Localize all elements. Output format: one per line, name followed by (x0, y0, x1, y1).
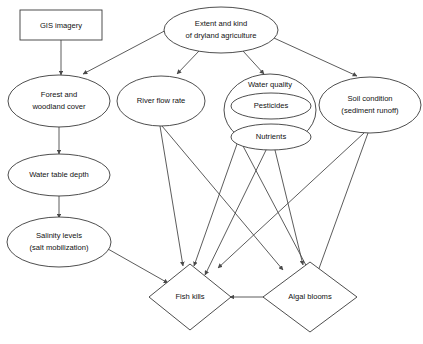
node-salinity-levels-label-line-1: (salt mobilization) (29, 243, 89, 252)
node-soil-condition-label-line-0: Soil condition (347, 94, 392, 103)
edge-layer (59, 27, 368, 297)
node-pesticides[interactable]: Pesticides (231, 93, 311, 119)
node-soil-condition[interactable]: Soil condition (sediment runoff) (319, 77, 421, 133)
edge-water-quality-to-fish-kills (194, 144, 237, 266)
edge-nutrients-to-fish-kills (205, 146, 268, 275)
node-fish-kills[interactable]: Fish kills (149, 264, 231, 330)
node-algal-blooms[interactable]: Algal blooms (263, 262, 357, 332)
node-forest-cover-label-line-1: woodland cover (31, 102, 86, 111)
edge-extent-to-water-quality (243, 51, 264, 74)
node-salinity-levels[interactable]: Salinity levels (salt mobilization) (7, 217, 111, 267)
node-fish-kills-label-line-0: Fish kills (175, 292, 204, 301)
edge-nutrients-to-algal-blooms (274, 146, 303, 265)
edge-water-quality-to-algal-blooms (243, 146, 309, 271)
node-water-quality-label-line-0: Water quality (248, 80, 292, 89)
node-nutrients[interactable]: Nutrients (231, 124, 311, 150)
node-water-table-depth[interactable]: Water table depth (8, 154, 110, 196)
node-nutrients-label-line-0: Nutrients (256, 132, 287, 141)
node-extent-dryland-label-line-1: of dryland agriculture (186, 31, 257, 40)
node-water-quality[interactable]: Water quality Pesticides Nutrients (224, 74, 316, 150)
edge-soil-condition-to-algal-blooms (317, 133, 368, 274)
node-salinity-levels-label-line-0: Salinity levels (36, 231, 82, 240)
node-extent-dryland-label-line-0: Extent and kind (195, 19, 247, 28)
edge-salinity-levels-to-fish-kills (108, 249, 168, 283)
node-forest-cover-label-line-0: Forest and (41, 90, 77, 99)
node-water-table-depth-label-line-0: Water table depth (29, 170, 89, 179)
node-soil-condition-label-line-1: (sediment runoff) (341, 106, 399, 115)
diagram-canvas: GIS imagery Extent and kind of dryland a… (0, 0, 423, 344)
node-layer: GIS imagery Extent and kind of dryland a… (7, 7, 421, 332)
edge-soil-condition-to-fish-kills (218, 133, 364, 268)
node-gis-imagery-label-line-0: GIS imagery (40, 21, 82, 30)
node-extent-dryland[interactable]: Extent and kind of dryland agriculture (164, 7, 278, 53)
node-forest-cover[interactable]: Forest and woodland cover (8, 75, 110, 127)
node-algal-blooms-label-line-0: Algal blooms (288, 292, 332, 301)
node-river-flow[interactable]: River flow rate (117, 76, 205, 126)
edge-extent-to-soil-condition (263, 33, 357, 76)
edge-extent-to-river-flow (177, 51, 199, 74)
node-gis-imagery[interactable]: GIS imagery (20, 10, 102, 40)
node-river-flow-label-line-0: River flow rate (137, 96, 186, 105)
node-pesticides-label-line-0: Pesticides (254, 101, 289, 110)
diagram-svg: GIS imagery Extent and kind of dryland a… (0, 0, 423, 344)
